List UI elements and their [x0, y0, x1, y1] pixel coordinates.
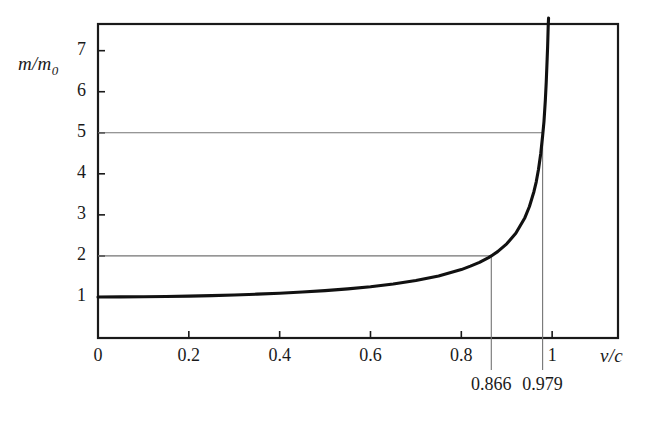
x-tick-label-0.4: 0.4 [250, 345, 310, 366]
mass-ratio-curve [98, 18, 549, 297]
x-tick-label-0.6: 0.6 [340, 345, 400, 366]
y-tick-label-5: 5 [60, 121, 86, 142]
x-tick-label-0.8: 0.8 [431, 345, 491, 366]
y-tick-label-6: 6 [60, 80, 86, 101]
y-tick-label-1: 1 [60, 285, 86, 306]
y-axis-label-text: m/m [18, 53, 52, 74]
plot-frame [98, 24, 618, 338]
annot-0979: 0.979 [503, 374, 583, 395]
x-tick-label-0: 0 [68, 345, 128, 366]
relativistic-mass-chart: m/m0 v/c 00.20.40.60.811234567 0.8660.97… [0, 0, 654, 424]
y-axis-label: m/m0 [18, 53, 58, 79]
y-axis-label-subscript: 0 [52, 63, 59, 78]
y-tick-label-7: 7 [60, 39, 86, 60]
x-tick-label-0.2: 0.2 [159, 345, 219, 366]
y-tick-label-2: 2 [60, 244, 86, 265]
y-tick-label-4: 4 [60, 162, 86, 183]
x-axis-label: v/c [600, 345, 623, 367]
y-tick-label-3: 3 [60, 203, 86, 224]
x-tick-label-1: 1 [522, 345, 582, 366]
reference-lines [98, 133, 543, 370]
